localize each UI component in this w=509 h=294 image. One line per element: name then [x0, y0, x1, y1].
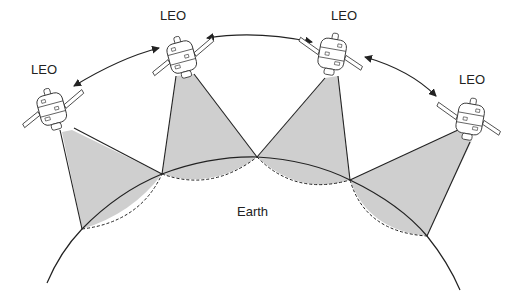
earth-label: Earth [237, 204, 268, 219]
satellite-label: LEO [160, 8, 186, 23]
inter-satellite-links [74, 35, 436, 96]
satellite-3-icon [294, 27, 367, 80]
satellite-2-icon [145, 28, 221, 86]
satellite-1-icon [15, 80, 91, 138]
satellite-label: LEO [31, 62, 57, 77]
satellite-label: LEO [331, 8, 357, 23]
satellite-label: LEO [459, 72, 485, 87]
constellation-diagram [0, 0, 509, 294]
